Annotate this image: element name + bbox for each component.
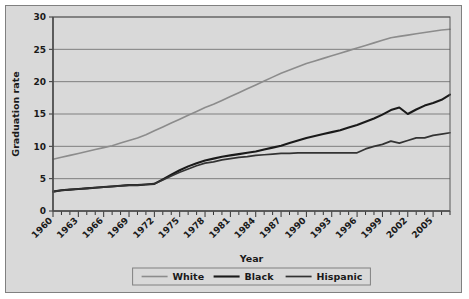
y-tick-label: 5 <box>40 174 46 184</box>
y-tick-labels: 051015202530 <box>33 12 46 216</box>
x-tick-label: 1999 <box>359 215 384 240</box>
x-tick-label: 2005 <box>410 215 435 240</box>
chart-legend: WhiteBlackHispanic <box>133 268 371 285</box>
x-tick-label: 1996 <box>334 215 359 240</box>
x-axis-label: Year <box>239 253 264 264</box>
x-tick-label: 1984 <box>232 215 257 240</box>
x-tick-label: 1960 <box>30 215 55 240</box>
y-tick-label: 0 <box>40 206 46 216</box>
x-tick-label: 1969 <box>106 215 131 240</box>
x-axis-ticks <box>53 211 450 217</box>
x-tick-label: 1972 <box>131 215 156 240</box>
y-axis-label: Graduation rate <box>10 71 21 156</box>
x-tick-label: 1981 <box>207 215 232 240</box>
chart-figure: 051015202530 196019631966196919721975197… <box>0 0 469 299</box>
x-tick-labels: 1960196319661969197219751978198119841987… <box>30 215 435 240</box>
x-tick-label: 1987 <box>258 215 283 240</box>
x-tick-label: 1978 <box>182 215 207 240</box>
y-tick-label: 10 <box>33 142 46 152</box>
line-chart: 051015202530 196019631966196919721975197… <box>0 0 469 299</box>
x-tick-label: 1993 <box>308 215 333 240</box>
x-tick-label: 1963 <box>55 215 80 240</box>
y-tick-label: 25 <box>33 45 46 55</box>
x-tick-label: 2002 <box>384 215 409 240</box>
legend-label-hispanic: Hispanic <box>317 271 363 282</box>
x-tick-label: 1990 <box>283 215 308 240</box>
legend-label-white: White <box>173 271 204 282</box>
x-tick-label: 1966 <box>80 215 105 240</box>
y-tick-label: 30 <box>33 12 46 22</box>
x-tick-label: 1975 <box>156 215 181 240</box>
y-tick-label: 20 <box>33 77 46 87</box>
legend-label-black: Black <box>245 271 275 282</box>
y-tick-label: 15 <box>33 109 46 119</box>
